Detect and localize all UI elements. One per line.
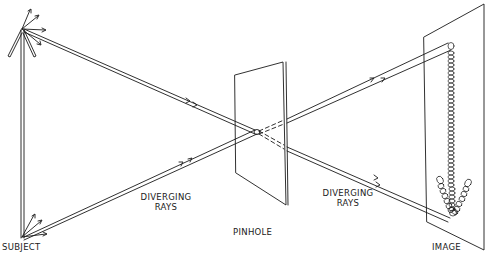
diverging-rays-left-label: DIVERGING RAYS [130, 192, 202, 212]
diverging-rays-left-line1: DIVERGING [130, 192, 202, 202]
ray-to-image-top [259, 43, 451, 134]
subject-label: SUBJECT [2, 242, 41, 252]
diverging-rays-right-line2: RAYS [312, 198, 384, 208]
pinhole-label: PINHOLE [233, 227, 272, 237]
ray-bottom-to-pinhole [24, 130, 257, 240]
diverging-rays-left-line2: RAYS [130, 202, 202, 212]
subject-arrow [8, 30, 36, 238]
diverging-rays-right-label: DIVERGING RAYS [312, 188, 384, 208]
pinhole-camera-diagram [0, 0, 492, 256]
subject-bottom-emission-rays-icon [22, 214, 47, 237]
diverging-rays-right-line1: DIVERGING [312, 188, 384, 198]
image-label: IMAGE [432, 242, 461, 252]
pinhole-plate [235, 62, 288, 205]
ray-top-to-pinhole [24, 29, 255, 134]
image-plate [424, 4, 484, 250]
inverted-image-arrow [435, 43, 472, 217]
